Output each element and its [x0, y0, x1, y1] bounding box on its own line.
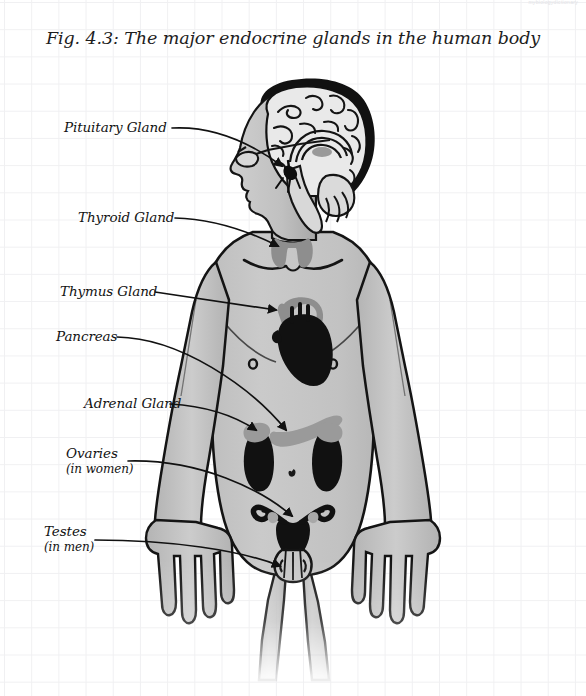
- label-pituitary-gland: Pituitary Gland: [64, 120, 167, 136]
- label-thyroid-gland-text: Thyroid Gland: [78, 209, 174, 225]
- label-pancreas: Pancreas: [56, 329, 117, 345]
- leader-testes: [95, 540, 280, 566]
- label-thymus-gland-text: Thymus Gland: [60, 283, 157, 299]
- leader-ovaries: [128, 461, 292, 516]
- leader-thymus: [155, 292, 276, 310]
- leader-pituitary: [172, 128, 282, 166]
- label-adrenal-gland: Adrenal Gland: [84, 396, 181, 412]
- label-ovaries: Ovaries (in women): [66, 446, 133, 478]
- label-testes-subtext: (in men): [44, 540, 94, 556]
- label-testes-text: Testes: [44, 523, 87, 539]
- label-adrenal-gland-text: Adrenal Gland: [84, 395, 181, 411]
- label-testes: Testes (in men): [44, 524, 94, 556]
- leader-pancreas: [117, 337, 286, 430]
- label-thymus-gland: Thymus Gland: [60, 284, 157, 300]
- label-ovaries-subtext: (in women): [66, 462, 133, 478]
- leader-lines: [0, 0, 586, 696]
- label-thyroid-gland: Thyroid Gland: [78, 210, 174, 226]
- label-pituitary-gland-text: Pituitary Gland: [64, 119, 167, 135]
- label-ovaries-text: Ovaries: [66, 445, 118, 461]
- leader-adrenal: [170, 404, 256, 430]
- leader-thyroid: [175, 218, 278, 246]
- label-pancreas-text: Pancreas: [56, 328, 117, 344]
- figure-canvas: mybiologydictionary Fig. 4.3: The major …: [0, 0, 586, 696]
